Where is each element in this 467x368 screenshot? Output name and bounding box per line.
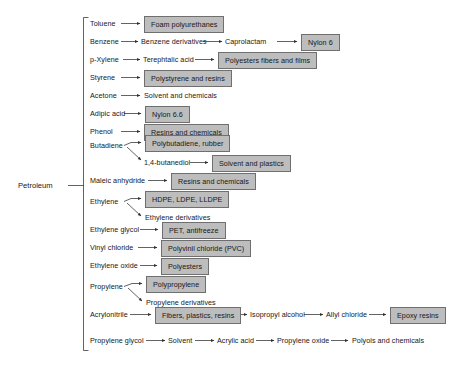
product-polypropylene: Polypropylene [146, 276, 206, 293]
product-pet-antifreeze: PET, antifreeze [162, 222, 226, 239]
product-polyols-and-chemicals: Polyols and chemicals [352, 336, 424, 345]
feedstock-p-xylene: p-Xylene [90, 55, 119, 64]
product-terephtalic-acid: Terephtalic acid [143, 55, 194, 64]
feedstock-acrylonitrile: Acrylonitrile [90, 310, 128, 319]
product-solvent-and-plastics: Solvent and plastics [212, 155, 291, 172]
product-solvent-and-chemicals: Solvent and chemicals [144, 91, 217, 100]
feedstock-propylene-glycol: Propylene glycol [90, 336, 144, 345]
feedstock-acetone: Acetone [90, 91, 117, 100]
product-benzene-derivatives: Benzene derivatives [141, 37, 207, 46]
process-flow-diagram: Petroleum Toluene Benzene p-Xylene Styre… [0, 0, 467, 368]
product-propylene-derivatives: Propylene derivatives [146, 298, 216, 307]
product-foam-polyurethanes: Foam polyurethanes [144, 16, 224, 33]
feedstock-toluene: Toluene [90, 19, 116, 28]
product-polybutadiene-rubber: Polybutadiene, rubber [145, 135, 230, 152]
feedstock-maleic-anhydride: Maleic anhydride [90, 176, 145, 185]
product-resins-and-chemicals-maleic: Resins and chemicals [171, 173, 256, 190]
product-propylene-oxide: Propylene oxide [277, 336, 329, 345]
product-polyesters-fibers-films: Polyesters fibers and films [218, 52, 317, 69]
product-acrylic-acid: Acrylic acid [217, 336, 254, 345]
product-solvent: Solvent [168, 336, 192, 345]
root-label-petroleum: Petroleum [18, 181, 53, 190]
feedstock-benzene: Benzene [90, 37, 119, 46]
root-bracket [84, 18, 89, 351]
product-polyvinil-chloride-pvc: Polyvinil chloride (PVC) [161, 240, 251, 257]
feedstock-propylene: Propylene [90, 282, 123, 291]
product-allyl-chloride: Allyl chloride [326, 310, 367, 319]
feedstock-butadiene: Butadiene [90, 141, 123, 150]
product-caprolactam: Caprolactam [225, 37, 266, 46]
product-nylon-6: Nylon 6 [301, 34, 340, 51]
product-nylon-66: Nylon 6.6 [145, 106, 190, 123]
product-polyesters: Polyesters [161, 258, 209, 275]
product-ethylene-derivatives: Ethylene derivatives [145, 213, 210, 222]
feedstock-ethylene: Ethylene [90, 197, 118, 206]
product-14-butanediol: 1,4-butanediol [144, 158, 190, 167]
product-fibers-plastics-resins: Fibers, plastics, resins [155, 307, 241, 324]
feedstock-phenol: Phenol [90, 127, 113, 136]
product-isopropyl-alcohol: Isopropyl alcohol [250, 310, 305, 319]
product-hdpe-ldpe-lldpe: HDPE, LDPE, LLDPE [145, 191, 229, 208]
feedstock-adipic-acid: Adipic acid [90, 109, 125, 118]
feedstock-ethylene-glycol: Ethylene glycol [90, 225, 139, 234]
feedstock-styrene: Styrene [90, 73, 115, 82]
product-epoxy-resins: Epoxy resins [390, 307, 446, 324]
feedstock-vinyl-chloride: Vinyl chloride [90, 243, 133, 252]
feedstock-ethylene-oxide: Ethylene oxide [90, 261, 138, 270]
product-polystyrene-and-resins: Polystyrene and resins [144, 70, 232, 87]
